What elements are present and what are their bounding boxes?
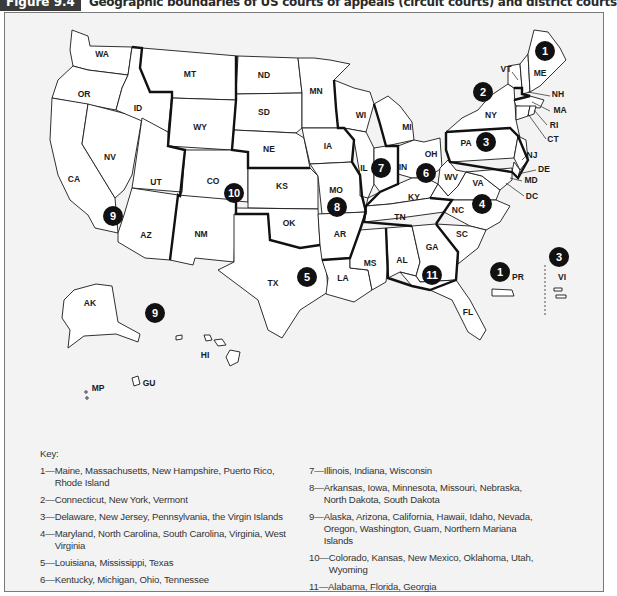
- key-item: 11—Alabama, Florida, Georgia: [309, 581, 539, 593]
- state-label-fl: FL: [463, 307, 473, 317]
- key-item: 10—Colorado, Kansas, New Mexico, Oklahom…: [309, 552, 539, 576]
- circuit-marker-2: 2: [473, 82, 493, 102]
- svg-text:9: 9: [110, 210, 116, 222]
- state-label-ia: IA: [324, 141, 333, 151]
- state-label-ri: RI: [550, 120, 559, 130]
- key-item: 7—Illinois, Indiana, Wisconsin: [309, 465, 539, 477]
- key-item-text: Delaware, New Jersey, Pennsylvania, the …: [55, 511, 283, 523]
- state-label-in: IN: [399, 162, 408, 172]
- state-ak: [62, 284, 140, 348]
- state-label-ms: MS: [364, 258, 377, 268]
- state-ct: [516, 106, 530, 120]
- svg-text:8: 8: [334, 201, 340, 213]
- key-item-text: Alabama, Florida, Georgia: [328, 581, 436, 593]
- state-label-co: CO: [207, 176, 220, 186]
- state-mp-1: [85, 391, 87, 393]
- state-label-mn: MN: [309, 86, 322, 96]
- state-label-ga: GA: [426, 242, 439, 252]
- key-item-text: Louisiana, Mississippi, Texas: [55, 557, 174, 569]
- key-item-text: Alaska, Arizona, California, Hawaii, Ida…: [324, 511, 539, 547]
- state-label-wi: WI: [356, 110, 366, 120]
- state-label-sd: SD: [258, 107, 270, 117]
- state-label-pr: PR: [512, 272, 524, 282]
- state-me: [528, 30, 566, 92]
- key-item: 5—Louisiana, Mississippi, Texas: [40, 557, 300, 569]
- state-hi-4: [226, 350, 240, 366]
- key-item: 9—Alaska, Arizona, California, Hawaii, I…: [309, 511, 539, 547]
- circuit-marker-6: 6: [416, 163, 436, 183]
- state-label-nm: NM: [194, 229, 207, 239]
- state-label-mi: MI: [402, 122, 411, 132]
- circuit-marker-10: 10: [224, 183, 244, 203]
- svg-text:5: 5: [304, 271, 310, 283]
- state-label-mt: MT: [184, 69, 197, 79]
- state-pr: [492, 289, 514, 296]
- svg-text:9: 9: [152, 307, 158, 319]
- state-label-nj: NJ: [527, 150, 538, 160]
- state-label-al: AL: [396, 255, 407, 265]
- svg-text:1: 1: [542, 45, 548, 57]
- state-label-va: VA: [472, 178, 483, 188]
- circuit-marker-7: 7: [371, 158, 391, 178]
- key-item: 4—Maryland, North Carolina, South Caroli…: [40, 528, 300, 552]
- state-label-tx: TX: [268, 278, 279, 288]
- key-item-number: 3—: [40, 511, 55, 523]
- state-mp-2: [86, 397, 88, 399]
- state-az: [118, 188, 178, 260]
- svg-text:10: 10: [228, 187, 240, 199]
- key-item: 6—Kentucky, Michigan, Ohio, Tennessee: [40, 574, 300, 586]
- circuit-marker-3: 3: [549, 247, 569, 267]
- state-label-id: ID: [134, 103, 143, 113]
- state-label-gu: GU: [143, 378, 156, 388]
- svg-text:4: 4: [479, 198, 486, 210]
- us-circuit-map: WAORCANVIDMTWYUTCOAZNMNDSDNEKSOKTXMNIAMO…: [0, 0, 612, 440]
- state-label-mo: MO: [329, 185, 343, 195]
- state-label-il: IL: [360, 163, 368, 173]
- state-label-wa: WA: [95, 49, 109, 59]
- state-label-me: ME: [534, 68, 547, 78]
- state-label-nh: NH: [552, 89, 564, 99]
- state-hi-2: [204, 335, 212, 341]
- state-hi-3: [214, 339, 226, 346]
- state-fl: [400, 272, 486, 340]
- state-label-ca: CA: [68, 174, 80, 184]
- circuit-marker-11: 11: [422, 265, 442, 285]
- key-item-number: 1—: [40, 465, 55, 489]
- state-label-ar: AR: [334, 229, 346, 239]
- state-label-hi: HI: [201, 350, 210, 360]
- key-item-text: Maine, Massachusetts, New Hampshire, Pue…: [55, 465, 300, 489]
- state-gu: [132, 376, 140, 386]
- state-label-ny: NY: [485, 110, 497, 120]
- key-item: 2—Connecticut, New York, Vermont: [40, 494, 300, 506]
- key-item-text: Colorado, Kansas, New Mexico, Oklahoma, …: [329, 552, 539, 576]
- key-title: Key:: [40, 448, 600, 459]
- key-item-text: Illinois, Indiana, Wisconsin: [324, 465, 432, 477]
- state-label-ok: OK: [283, 218, 297, 228]
- circuit-marker-3: 3: [476, 132, 496, 152]
- key-item-text: Arkansas, Iowa, Minnesota, Missouri, Neb…: [324, 482, 539, 506]
- state-label-wv: WV: [444, 172, 458, 182]
- key-item-number: 4—: [40, 528, 55, 552]
- state-wi: [334, 80, 374, 132]
- key-item: 1—Maine, Massachusetts, New Hampshire, P…: [40, 465, 300, 489]
- state-label-la: LA: [337, 273, 348, 283]
- circuit-marker-5: 5: [297, 267, 317, 287]
- key-item-number: 7—: [309, 465, 324, 477]
- state-label-ma: MA: [553, 105, 566, 115]
- state-label-az: AZ: [140, 230, 151, 240]
- svg-text:3: 3: [556, 251, 562, 263]
- key-item-text: Maryland, North Carolina, South Carolina…: [55, 528, 300, 552]
- state-label-vt: VT: [501, 64, 513, 74]
- state-label-wy: WY: [193, 122, 207, 132]
- key-item: 8—Arkansas, Iowa, Minnesota, Missouri, N…: [309, 482, 539, 506]
- state-label-ct: CT: [547, 134, 559, 144]
- state-label-oh: OH: [425, 149, 438, 159]
- key-column-right: 7—Illinois, Indiana, Wisconsin8—Arkansas…: [309, 465, 539, 596]
- state-label-dc: DC: [526, 191, 538, 201]
- svg-text:1: 1: [497, 266, 503, 278]
- circuit-marker-4: 4: [472, 194, 492, 214]
- state-label-ky: KY: [408, 192, 420, 202]
- state-label-vi: VI: [558, 272, 566, 282]
- svg-text:3: 3: [483, 136, 489, 148]
- state-vi: [554, 288, 562, 291]
